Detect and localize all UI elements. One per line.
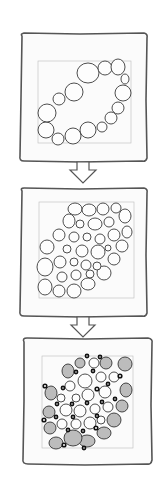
down-arrow-icon: [70, 162, 96, 183]
down-arrow-icon: [71, 317, 95, 337]
process-diagram: [0, 0, 165, 490]
step-2-tile: [20, 188, 147, 317]
step-1-tile: [20, 33, 147, 162]
step-3-tile: [23, 338, 152, 465]
